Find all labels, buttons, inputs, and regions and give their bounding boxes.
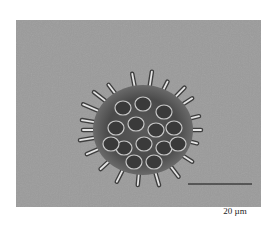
cell xyxy=(128,117,144,131)
cell xyxy=(156,105,172,119)
cell xyxy=(103,137,119,151)
micrograph: 20 µm xyxy=(16,20,261,207)
cell xyxy=(146,155,162,169)
colony-illustration xyxy=(16,20,261,207)
cell xyxy=(148,123,164,137)
cell xyxy=(126,155,142,169)
cell xyxy=(170,137,186,151)
scale-bar-label: 20 µm xyxy=(205,206,265,216)
cell xyxy=(135,97,151,111)
cell xyxy=(108,121,124,135)
cell xyxy=(166,121,182,135)
cell xyxy=(115,101,131,115)
cell xyxy=(136,137,152,151)
